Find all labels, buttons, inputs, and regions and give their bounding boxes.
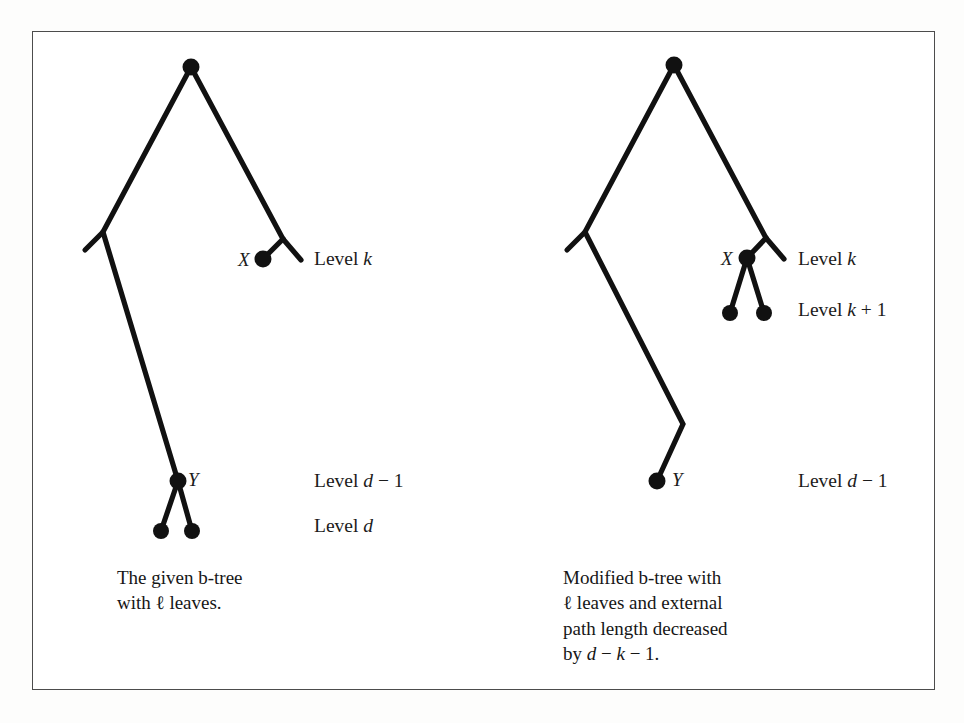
right-panel-caption: Modified b-tree with ℓ leaves and extern… [563, 565, 863, 666]
left-level-label-d: Level d [314, 516, 373, 536]
left-level-label-d-minus-1: Level d − 1 [314, 471, 404, 491]
right-level-label-k: Level k [798, 249, 856, 269]
right-tree-node-label-X: X [721, 249, 733, 268]
left-tree-node-label-Y: Y [188, 470, 199, 489]
right-tree-node-label-Y: Y [672, 470, 683, 489]
left-panel-caption: The given b-tree with ℓ leaves. [117, 565, 357, 616]
left-level-label-k: Level k [314, 249, 372, 269]
left-tree-node-label-X: X [238, 250, 250, 269]
figure-root: X Y Level k Level d − 1 Level d The give… [0, 0, 964, 723]
right-level-label-d-minus-1: Level d − 1 [798, 471, 888, 491]
right-level-label-k-plus-1: Level k + 1 [798, 300, 886, 320]
